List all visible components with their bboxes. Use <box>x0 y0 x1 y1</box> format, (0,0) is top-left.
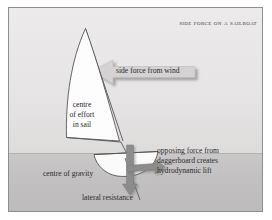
label-side-force-from-wind: side force from wind <box>116 67 179 76</box>
diagram-page: Side force on a sailboat side force from… <box>0 0 272 220</box>
label-centre-of-gravity: centre of gravity <box>43 170 93 179</box>
label-opposing-force-line2: daggerboard creates <box>157 157 218 166</box>
sailboat-artwork <box>9 8 262 211</box>
label-centre-of-effort-line2: of effort <box>59 111 105 120</box>
label-lateral-resistance: lateral resistance <box>82 194 133 203</box>
label-centre-of-effort-line3: in sail <box>59 121 105 130</box>
label-opposing-force-line3: hydrodynamic lift <box>157 167 212 176</box>
diagram-title: Side force on a sailboat <box>159 19 257 27</box>
mast-lower <box>121 142 127 154</box>
diagram-frame: Side force on a sailboat side force from… <box>8 7 263 212</box>
label-centre-of-effort-line1: centre <box>59 101 105 110</box>
label-opposing-force-line1: opposing force from <box>157 147 219 156</box>
